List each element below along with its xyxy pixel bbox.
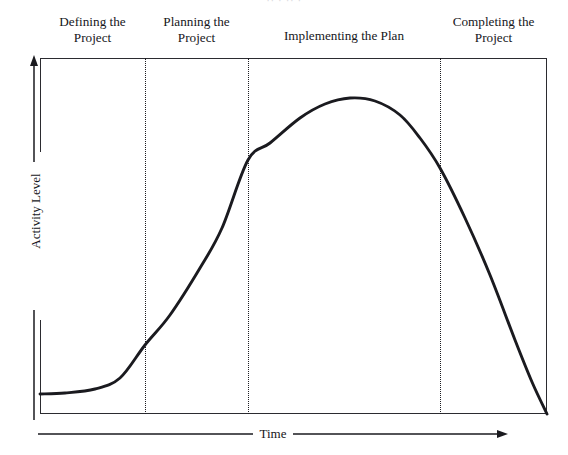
phase-label-completing-line2: Project [475,30,512,46]
cropped-caption-remnant: ·· · ·· · [0,0,568,6]
phase-label-completing: Completing the Project [440,14,547,58]
phase-label-completing-line1: Completing the [453,14,535,30]
phase-label-defining-line2: Project [74,30,111,46]
phase-label-implementing: Implementing the Plan [248,14,440,64]
phase-label-defining-line1: Defining the [59,14,125,30]
phase-label-planning: Planning the Project [145,14,248,58]
plot-frame [40,58,547,414]
divider-planning-implementing [248,58,249,414]
y-axis: Activity Level [22,52,48,420]
phase-label-row: Defining the Project Planning the Projec… [40,14,547,58]
phase-label-defining: Defining the Project [40,14,145,58]
phase-label-planning-line2: Project [178,30,215,46]
x-axis-arrow-icon [30,420,516,444]
divider-implementing-completing [440,58,441,414]
x-axis: Time [30,420,516,452]
phase-label-implementing-line1: Implementing the Plan [284,28,404,44]
y-axis-label: Activity Level [29,151,43,271]
project-lifecycle-chart: ·· · ·· · Defining the Project Planning … [0,0,568,455]
phase-label-planning-line1: Planning the [163,14,229,30]
divider-defining-planning [145,58,146,414]
